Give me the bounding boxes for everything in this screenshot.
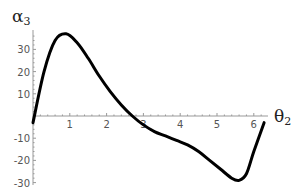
data-line [33, 34, 264, 181]
y-tick-label: -30 [14, 178, 30, 189]
x-tick-label: 6 [251, 119, 257, 130]
y-axis: 302010-10-20-30 [14, 30, 36, 189]
chart: 302010-10-20-30 123456 α3 θ2 [0, 0, 306, 193]
y-tick-label: -10 [14, 133, 30, 144]
x-tick-label: 1 [67, 119, 73, 130]
y-tick-label: 20 [17, 67, 30, 78]
y-tick-label: 10 [17, 89, 30, 100]
x-tick-label: 2 [103, 119, 109, 130]
x-tick-label: 4 [177, 119, 183, 130]
y-tick-label: -20 [14, 155, 30, 166]
y-tick-label: 30 [17, 44, 30, 55]
x-axis: 123456 [33, 113, 268, 130]
x-axis-label: θ2 [274, 106, 291, 128]
x-tick-label: 5 [214, 119, 220, 130]
y-axis-label: α3 [12, 6, 30, 28]
